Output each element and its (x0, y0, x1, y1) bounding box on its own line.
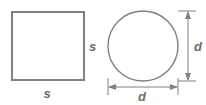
vertical-arrow-top-icon (185, 11, 191, 19)
horizontal-arrow-left-icon (108, 84, 116, 90)
square-side-label-right: s (89, 39, 96, 54)
circle-diameter-label-vertical: d (194, 39, 203, 54)
circle-shape (108, 11, 178, 81)
geometry-figure: s s d d (0, 0, 206, 105)
circle-diameter-label-horizontal: d (138, 89, 147, 104)
horizontal-arrow-right-icon (170, 84, 178, 90)
vertical-arrow-bottom-icon (185, 73, 191, 81)
square-shape (12, 12, 84, 80)
square-side-label-bottom: s (43, 86, 50, 101)
figure-container: s s d d (0, 0, 206, 105)
